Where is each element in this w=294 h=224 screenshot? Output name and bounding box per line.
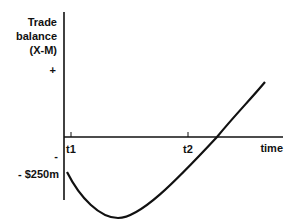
y-axis-label-line-2: balance — [16, 30, 57, 42]
j-curve-diagram: Trade balance (X-M) + - - $250m t1 t2 ti… — [0, 0, 294, 224]
j-curve-line — [67, 82, 265, 218]
positive-marker: + — [50, 64, 56, 76]
y-axis-label-line-1: Trade — [28, 16, 57, 28]
x-axis-label: time — [260, 142, 283, 154]
x-tick-label-t1: t1 — [66, 143, 76, 155]
x-tick-label-t2: t2 — [183, 143, 193, 155]
y-value-label: - $250m — [18, 168, 59, 180]
y-axis-label-line-3: (X-M) — [30, 44, 58, 56]
negative-marker: - — [54, 150, 58, 162]
